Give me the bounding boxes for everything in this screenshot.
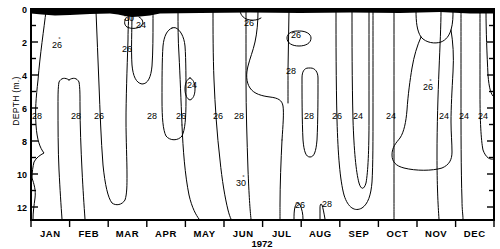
contour-label: 28 <box>147 111 157 121</box>
x-tick-label: OCT <box>387 228 409 239</box>
x-tick-label: MAR <box>116 228 139 239</box>
x-tick-label: NOV <box>425 228 447 239</box>
x-tick-label: AUG <box>309 228 332 239</box>
figure-container: DEPTH (m.) <box>0 0 500 249</box>
contour-label: 26 <box>122 44 132 54</box>
x-axis-title: 1972 <box>251 238 272 249</box>
y-tick-label: 6 <box>22 104 27 114</box>
contour-label: 28 <box>234 111 244 121</box>
contour-label: 24 <box>136 20 146 30</box>
x-tick-label: JUL <box>272 228 292 239</box>
contour-label: 24 <box>353 111 363 121</box>
contour-label: 26 <box>332 111 342 121</box>
contour-label: 26 <box>176 111 186 121</box>
y-tick-label: 2 <box>22 38 27 48</box>
y-tick-label: 0 <box>22 5 27 15</box>
y-tick-label: 4 <box>22 71 27 81</box>
x-tick-label: MAY <box>194 228 216 239</box>
contour-label: 26 <box>213 111 223 121</box>
contour-label: 28 <box>286 66 296 76</box>
x-tick-label: SEP <box>349 228 370 239</box>
contour-label: 24 <box>187 80 197 90</box>
x-tick-label: APR <box>155 228 177 239</box>
contour-label: 26 <box>94 111 104 121</box>
y-tick-label: 8 <box>22 137 27 147</box>
contour-chart: 0 2 4 6 8 10 12 JANFEBMARAPRMAYJUNJULAUG… <box>0 0 500 249</box>
y-tick-label: 10 <box>17 170 27 180</box>
x-tick-label: FEB <box>78 228 99 239</box>
contour-label: 26 <box>295 200 305 210</box>
contour-label: 26 <box>244 18 254 28</box>
contour-label: 28 <box>71 111 81 121</box>
contour-label: 28 <box>32 111 42 121</box>
contour-label: 24 <box>478 111 488 121</box>
x-tick-label: JAN <box>40 228 61 239</box>
contour-label: 24 <box>439 111 449 121</box>
contour-label: 24 <box>459 111 469 121</box>
contour-label: 24 <box>386 111 396 121</box>
contour-label: 26 <box>291 30 301 40</box>
x-tick-label: DEC <box>464 228 486 239</box>
y-tick-label: 12 <box>17 203 27 213</box>
contour-label: 28 <box>304 111 314 121</box>
contour-label: 28 <box>322 199 332 209</box>
x-axis-ticks <box>31 220 494 227</box>
y-axis-tick-labels: 0 2 4 6 8 10 12 <box>17 5 27 213</box>
